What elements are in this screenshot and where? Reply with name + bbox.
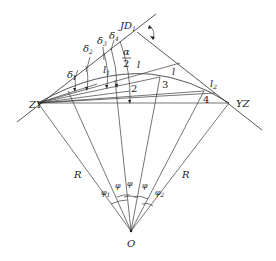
radius-3	[131, 77, 160, 231]
chord-4	[38, 91, 204, 103]
chord-3-l	[38, 77, 160, 103]
label-delta4: δ4	[109, 30, 119, 42]
label-delta3: δ3	[97, 35, 107, 47]
label-jd: JD1	[118, 20, 136, 32]
label-l-right: l	[172, 66, 175, 77]
label-point-3: 3	[162, 79, 168, 90]
label-alpha-den: 2	[123, 58, 129, 69]
label-phi-b: φ	[127, 179, 133, 188]
label-phi-c: φ	[142, 181, 148, 190]
center-point	[130, 230, 133, 233]
label-alpha: α	[123, 46, 130, 57]
radius-zy	[38, 103, 131, 231]
label-yz: YZ	[236, 98, 251, 109]
curve-diagram: ZY YZ JD1 O R R δ1 δ2 δ3 δ4 α 2 l l1 l2 …	[0, 0, 276, 261]
label-r-left: R	[73, 169, 82, 180]
radius-1	[68, 91, 131, 231]
label-phi-a: φ	[115, 181, 121, 190]
arrow-head	[128, 100, 131, 104]
phi2-arc	[142, 203, 153, 206]
label-point-4: 4	[203, 94, 209, 105]
label-zy: ZY	[28, 99, 44, 110]
leader-delta4	[111, 40, 114, 50]
phi-arc-c	[134, 196, 148, 199]
diagram-canvas: ZY YZ JD1 O R R δ1 δ2 δ3 δ4 α 2 l l1 l2 …	[0, 0, 276, 261]
leader-delta2	[86, 57, 90, 72]
label-o: O	[127, 238, 135, 249]
radius-4	[131, 91, 204, 231]
label-l2: l2	[210, 78, 217, 90]
label-delta1: δ1	[67, 69, 77, 81]
label-delta2: δ2	[83, 43, 93, 55]
radius-yz	[131, 103, 229, 231]
arrow-head	[150, 36, 155, 40]
label-point-2: 2	[131, 83, 137, 94]
label-phi1: φ1	[101, 188, 110, 198]
label-r-right: R	[181, 169, 190, 180]
leader-delta3	[103, 47, 104, 60]
phi1-arc	[111, 200, 127, 204]
arrow-head	[148, 25, 152, 29]
delta4-arc	[111, 48, 117, 86]
label-l: l	[137, 59, 140, 70]
tangent-line-exit	[137, 32, 262, 130]
